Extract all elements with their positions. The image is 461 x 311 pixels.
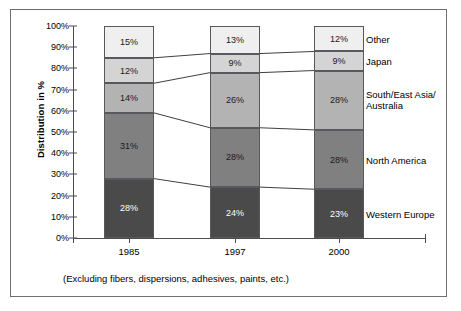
x-axis-line bbox=[73, 238, 425, 239]
bar-segment-japan-1997: 9% bbox=[210, 54, 260, 73]
bar-segment-other-2000: 12% bbox=[314, 26, 364, 51]
y-axis-tick-label: 20% bbox=[35, 191, 69, 201]
y-axis-tick-label: 10% bbox=[35, 212, 69, 222]
bar-segment-japan-2000: 9% bbox=[314, 51, 364, 70]
y-axis-tick-mark bbox=[69, 68, 77, 69]
x-axis-label-2000: 2000 bbox=[304, 246, 374, 257]
y-axis-tick-mark bbox=[69, 216, 77, 217]
bar-segment-north-america-2000: 28% bbox=[314, 130, 364, 189]
connector-line bbox=[260, 128, 314, 130]
x-axis-tick-mark bbox=[425, 234, 426, 243]
x-axis-tick-mark bbox=[339, 234, 340, 243]
y-axis-tick-label: 0% bbox=[35, 233, 69, 243]
y-axis-tick-label: 30% bbox=[35, 169, 69, 179]
y-axis-tick-label: 60% bbox=[35, 106, 69, 116]
bar-segment-japan-1985: 12% bbox=[104, 58, 154, 83]
bar-segment-other-1997: 13% bbox=[210, 26, 260, 54]
y-axis-tick-labels: 0%10%20%30%40%50%60%70%80%90%100% bbox=[29, 10, 69, 298]
legend-label-north-america: North America bbox=[366, 154, 426, 165]
x-axis-tick-mark bbox=[129, 234, 130, 243]
y-axis-tick-mark bbox=[69, 89, 77, 90]
y-axis-tick-mark bbox=[69, 132, 77, 133]
y-axis-tick-label: 100% bbox=[35, 21, 69, 31]
chart-frame: Distribution in % 0%10%20%30%40%50%60%70… bbox=[10, 9, 447, 297]
x-axis-tick-mark bbox=[73, 234, 74, 243]
bar-segment-other-1985: 15% bbox=[104, 26, 154, 58]
legend-label-japan: Japan bbox=[366, 55, 392, 66]
y-axis-tick-mark bbox=[69, 47, 77, 48]
x-axis-tick-mark bbox=[235, 234, 236, 243]
bar-segment-south-east-asia-australia-1985: 14% bbox=[104, 83, 154, 113]
legend-label-western-europe: Western Europe bbox=[366, 208, 434, 219]
y-axis-tick-mark bbox=[69, 153, 77, 154]
connector-line bbox=[154, 54, 210, 58]
connector-line bbox=[154, 73, 210, 84]
y-axis-tick-mark bbox=[69, 174, 77, 175]
y-axis-line bbox=[73, 26, 74, 239]
connector-line bbox=[154, 113, 210, 128]
bar-segment-western-europe-1997: 24% bbox=[210, 187, 260, 238]
bar-segment-north-america-1985: 31% bbox=[104, 113, 154, 179]
y-axis-tick-mark bbox=[69, 110, 77, 111]
x-axis-label-1985: 1985 bbox=[94, 246, 164, 257]
connector-line bbox=[154, 179, 210, 187]
y-axis-tick-label: 70% bbox=[35, 85, 69, 95]
bar-segment-south-east-asia-australia-2000: 28% bbox=[314, 71, 364, 130]
chart-plot-area: Distribution in % 0%10%20%30%40%50%60%70… bbox=[11, 10, 448, 298]
connector-line bbox=[260, 51, 314, 53]
y-axis-tick-label: 50% bbox=[35, 127, 69, 137]
bar-segment-western-europe-2000: 23% bbox=[314, 189, 364, 238]
y-axis-tick-label: 80% bbox=[35, 63, 69, 73]
legend-label-other: Other bbox=[366, 33, 390, 44]
y-axis-tick-mark bbox=[69, 195, 77, 196]
legend-label-south-east-asia-australia: South/East Asia/ Australia bbox=[366, 89, 436, 111]
connector-line bbox=[260, 187, 314, 189]
bar-segment-western-europe-1985: 28% bbox=[104, 179, 154, 238]
bar-segment-south-east-asia-australia-1997: 26% bbox=[210, 73, 260, 128]
connector-line bbox=[260, 71, 314, 73]
x-axis-label-1997: 1997 bbox=[200, 246, 270, 257]
y-axis-tick-mark bbox=[69, 26, 77, 27]
y-axis-tick-label: 40% bbox=[35, 148, 69, 158]
chart-footnote: (Excluding fibers, dispersions, adhesive… bbox=[63, 273, 289, 284]
y-axis-tick-label: 90% bbox=[35, 42, 69, 52]
bar-segment-north-america-1997: 28% bbox=[210, 128, 260, 187]
